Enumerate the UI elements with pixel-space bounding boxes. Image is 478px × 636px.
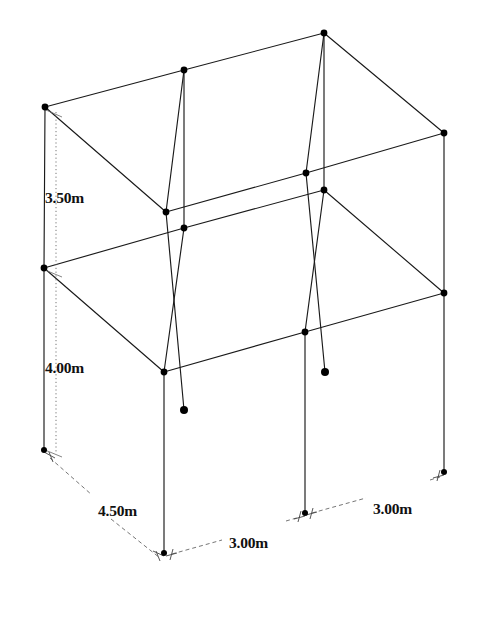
node-roof-back-right	[321, 30, 328, 37]
dimension-label-lower-storey-height: 4.00m	[45, 360, 84, 376]
structure-members	[44, 33, 444, 553]
node-base-front-left	[161, 550, 167, 556]
upper-storey-columns	[44, 33, 444, 293]
node-mid-back-right	[321, 187, 328, 194]
beam-roof-interior-left	[166, 70, 184, 212]
column-upper-back-left	[44, 107, 45, 268]
node-mid-front-mid	[302, 329, 309, 336]
mid-floor-beams	[44, 190, 444, 372]
beam-mid-left-front	[44, 268, 164, 372]
dimension-line-depth	[50, 458, 92, 495]
dimension-line-front-bay	[172, 540, 222, 554]
node-mid-right	[441, 290, 448, 297]
node-base-right	[441, 469, 447, 475]
beam-roof-interior-right	[306, 33, 324, 173]
node-mid-back-mid	[181, 225, 188, 232]
arrowhead-front-start	[166, 549, 177, 560]
dimension-line-right-bay	[312, 498, 366, 513]
beam-mid-right-back	[324, 190, 444, 293]
node-roof-back-left	[42, 104, 49, 111]
node-mid-back-left	[41, 265, 48, 272]
hanging-column-stubs	[166, 173, 325, 410]
dimension-line-depth-2	[111, 519, 160, 558]
dimension-tick-roof	[46, 110, 62, 117]
dimension-lines	[45, 110, 440, 558]
node-roof-front-mid	[303, 170, 310, 177]
dimension-label-right-bay-span: 3.00m	[373, 501, 412, 517]
structure-nodes	[41, 30, 448, 556]
beam-roof-right-front	[306, 133, 444, 173]
beam-mid-back-left	[44, 228, 184, 268]
dimension-label-upper-storey-height: 3.50m	[45, 190, 84, 206]
node-stub-end-right	[321, 368, 329, 376]
figure-canvas: 3.50m 4.00m 4.50m 3.00m 3.00m	[0, 0, 478, 636]
node-roof-back-mid	[181, 67, 188, 74]
node-roof-right	[441, 130, 448, 137]
beam-mid-right-front	[305, 293, 444, 332]
beam-roof-back-left	[45, 70, 184, 107]
beam-roof-right-back	[324, 33, 444, 133]
column-stub-front-left	[166, 212, 184, 410]
beam-roof-back-right	[184, 33, 324, 70]
dimension-label-front-bay-span: 3.00m	[229, 535, 268, 551]
beam-mid-front-right	[164, 332, 305, 372]
dimension-label-depth-span: 4.50m	[98, 503, 137, 519]
roof-beams	[45, 33, 444, 212]
node-base-back-left	[41, 447, 47, 453]
node-base-front-mid	[302, 510, 308, 516]
beam-mid-back-right	[184, 190, 324, 228]
beam-roof-front-right	[166, 173, 306, 212]
node-stub-end-left	[180, 406, 188, 414]
node-roof-front-left	[163, 209, 170, 216]
node-mid-front-left	[161, 369, 168, 376]
